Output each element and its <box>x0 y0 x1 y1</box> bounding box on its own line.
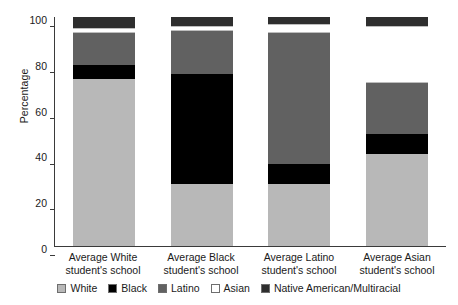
x-axis-label-line: Average Black <box>152 251 250 264</box>
y-axis-title: Percentage <box>18 26 30 166</box>
x-axis-label-line: Average Latino <box>250 251 348 264</box>
bar-segment-white[interactable] <box>268 184 330 246</box>
y-axis-tick-label: 0 <box>41 243 47 255</box>
legend-swatch <box>261 284 270 293</box>
bar-segment-latino[interactable] <box>73 33 135 65</box>
stacked-bar[interactable] <box>171 17 233 246</box>
bar-segment-native-american-multiracial[interactable] <box>171 17 233 26</box>
bar-segment-native-american-multiracial[interactable] <box>366 17 428 26</box>
legend-label: Black <box>121 282 147 294</box>
legend-item[interactable]: Latino <box>158 282 200 294</box>
legend-swatch <box>211 284 220 293</box>
bar-segment-black[interactable] <box>268 164 330 185</box>
legend-label: White <box>70 282 97 294</box>
bar-segment-native-american-multiracial[interactable] <box>268 17 330 24</box>
x-axis-label-line: student's school <box>152 264 250 277</box>
bar-segment-native-american-multiracial[interactable] <box>73 17 135 28</box>
legend-swatch <box>158 284 167 293</box>
x-axis-label-line: student's school <box>54 264 152 277</box>
x-axis-label-line: Average Asian <box>348 251 446 264</box>
x-axis-labels: Average Whitestudent's schoolAverage Bla… <box>54 251 446 276</box>
legend-item[interactable]: Asian <box>211 282 250 294</box>
y-axis-tick-label: 20 <box>35 197 47 209</box>
legend-item[interactable]: Native American/Multiracial <box>261 282 401 294</box>
legend-label: Native American/Multiracial <box>274 282 401 294</box>
bar-segment-black[interactable] <box>171 74 233 184</box>
bar-segment-asian[interactable] <box>366 26 428 83</box>
x-axis-label: Average Latinostudent's school <box>250 251 348 276</box>
y-axis-tick-label: 40 <box>35 151 47 163</box>
bar-segment-white[interactable] <box>366 154 428 246</box>
chart-legend: WhiteBlackLatinoAsianNative American/Mul… <box>0 282 458 294</box>
plot-area: 020406080100 <box>54 17 446 247</box>
y-axis-tick-label: 80 <box>35 60 47 72</box>
bar-segment-asian[interactable] <box>268 24 330 33</box>
stacked-bar[interactable] <box>73 17 135 246</box>
y-axis-tick-label: 60 <box>35 106 47 118</box>
bar-segment-latino[interactable] <box>366 83 428 133</box>
stacked-bar[interactable] <box>366 17 428 246</box>
legend-swatch <box>108 284 117 293</box>
legend-label: Latino <box>171 282 200 294</box>
bar-slot <box>348 17 446 246</box>
bar-slot <box>153 17 251 246</box>
x-axis-label: Average Asianstudent's school <box>348 251 446 276</box>
bars-layer <box>55 17 446 246</box>
bar-slot <box>251 17 349 246</box>
x-axis-label-line: student's school <box>348 264 446 277</box>
y-axis-tick-label: 100 <box>29 14 47 26</box>
legend-label: Asian <box>224 282 250 294</box>
legend-item[interactable]: Black <box>108 282 147 294</box>
bar-segment-black[interactable] <box>73 65 135 79</box>
bar-segment-white[interactable] <box>171 184 233 246</box>
stacked-bar-chart: Percentage 020406080100 Average Whitestu… <box>0 0 458 305</box>
bar-slot <box>55 17 153 246</box>
legend-swatch <box>57 284 66 293</box>
x-axis-label: Average Whitestudent's school <box>54 251 152 276</box>
x-axis-label: Average Blackstudent's school <box>152 251 250 276</box>
bar-segment-latino[interactable] <box>171 31 233 75</box>
bar-segment-white[interactable] <box>73 79 135 246</box>
x-axis-label-line: student's school <box>250 264 348 277</box>
stacked-bar[interactable] <box>268 17 330 246</box>
bar-segment-black[interactable] <box>366 134 428 155</box>
legend-item[interactable]: White <box>57 282 97 294</box>
bar-segment-latino[interactable] <box>268 33 330 164</box>
x-axis-label-line: Average White <box>54 251 152 264</box>
